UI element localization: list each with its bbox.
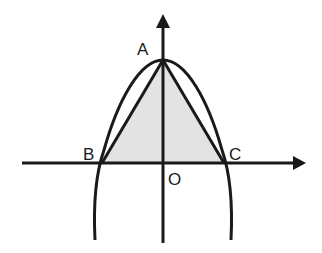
label-a: A xyxy=(137,40,149,59)
label-o: O xyxy=(168,170,181,189)
label-b: B xyxy=(83,145,94,164)
x-axis-arrow-icon xyxy=(293,156,306,170)
y-axis-arrow-icon xyxy=(156,14,170,28)
label-c: C xyxy=(229,145,241,164)
parabola-triangle-diagram: A B C O xyxy=(0,0,322,253)
